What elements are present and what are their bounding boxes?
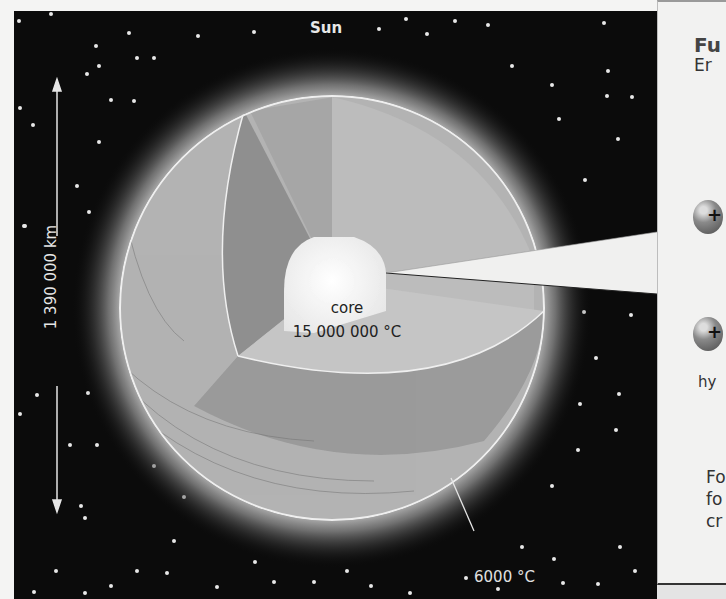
fusion-info-panel: Fu Er + + hy Fo fo cr (657, 0, 726, 585)
panel-text-line: fo (706, 489, 722, 509)
panel-title: Fu (694, 33, 721, 57)
panel-subtitle: Er (694, 55, 712, 75)
sun-title: Sun (310, 19, 342, 37)
core-label: core 15 000 000 °C (264, 296, 430, 344)
core-name: core (264, 296, 430, 320)
proton-icon: + (693, 317, 723, 351)
space-background: Sun 1 390 000 km core 15 000 000 °C 6000… (14, 11, 657, 599)
particle-label: hy (698, 373, 716, 391)
diameter-label: 1 390 000 km (42, 202, 60, 352)
core-temperature: 15 000 000 °C (264, 320, 430, 344)
surface-temperature-label: 6000 °C (474, 568, 535, 586)
panel-text-line: cr (706, 511, 722, 531)
panel-text-line: Fo (706, 467, 726, 487)
panel-shadow (657, 585, 726, 599)
proton-icon: + (693, 200, 723, 234)
